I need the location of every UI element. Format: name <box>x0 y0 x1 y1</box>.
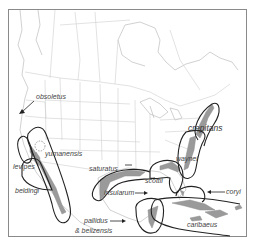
label-levipes: levipes <box>13 163 35 171</box>
label-caribaeus: caribaeus <box>187 221 217 229</box>
label-waynei: waynei <box>176 155 198 163</box>
label-crepitans: crepitans <box>188 124 223 132</box>
label-saturatus: saturatus <box>89 165 118 173</box>
label-belizensis: & belizensis <box>75 227 112 235</box>
label-coryi: coryi <box>226 188 241 196</box>
label-scottii: scottii <box>145 177 163 185</box>
label-yumanensis: yumanensis <box>45 150 82 158</box>
label-insularum: insularum <box>104 189 134 197</box>
label-pallidus: pallidus <box>84 217 108 225</box>
label-beldingi: beldingi <box>15 187 39 195</box>
label-obsoletus: obsoletus <box>36 93 66 101</box>
